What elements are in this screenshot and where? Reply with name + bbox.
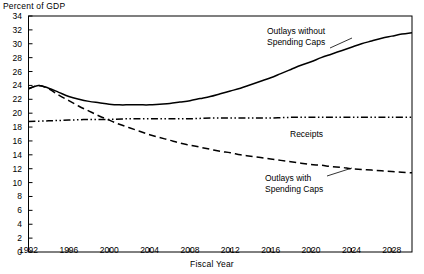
leader-outlays-without bbox=[330, 38, 352, 48]
annotation-line-2: Spending Caps bbox=[267, 37, 325, 48]
plot-area bbox=[0, 0, 424, 274]
annotation-receipts: Receipts bbox=[290, 129, 323, 140]
annotation-line-1: Outlays without bbox=[267, 26, 325, 37]
plot-frame bbox=[29, 16, 413, 252]
annotation-outlays-without-caps: Outlays without Spending Caps bbox=[267, 26, 325, 47]
annotation-line-1: Outlays with bbox=[265, 173, 323, 184]
data-series bbox=[29, 33, 413, 176]
leader-outlays-with bbox=[327, 168, 352, 176]
series-line-solid bbox=[29, 33, 413, 105]
annotation-outlays-with-caps: Outlays with Spending Caps bbox=[265, 173, 323, 194]
plot-border bbox=[29, 16, 413, 252]
annotation-line-2: Spending Caps bbox=[265, 184, 323, 195]
series-line-dashed bbox=[29, 85, 413, 172]
series-line-dash-dot-dot bbox=[29, 117, 413, 121]
chart-container: Percent of GDP Fiscal Year 0246810121416… bbox=[0, 0, 424, 274]
annotation-line-1: Receipts bbox=[290, 129, 323, 140]
